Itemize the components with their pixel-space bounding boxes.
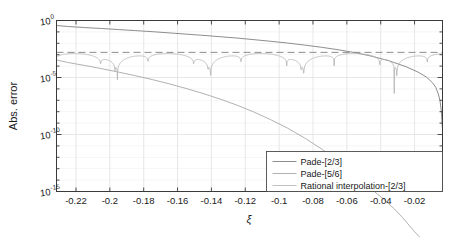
svg-text:10: 10 <box>39 186 51 198</box>
y-axis-label: Abs. error <box>7 82 19 131</box>
figure-background <box>0 0 458 244</box>
x-tick-label: -0.02 <box>404 195 426 206</box>
x-tick-label: -0.08 <box>302 195 324 206</box>
x-tick-label: -0.06 <box>336 195 358 206</box>
svg-text:-10: -10 <box>50 126 61 134</box>
chart-svg: -0.22-0.2-0.18-0.16-0.14-0.12-0.1-0.08-0… <box>0 0 458 244</box>
x-tick-label: -0.2 <box>102 195 118 206</box>
x-tick-label: -0.14 <box>201 195 223 206</box>
x-tick-label: -0.04 <box>370 195 392 206</box>
x-tick-label: -0.1 <box>271 195 287 206</box>
x-tick-label: -0.18 <box>133 195 155 206</box>
legend-label-2[interactable]: Pade-[5/6] <box>301 169 343 179</box>
x-tick-label: -0.12 <box>234 195 256 206</box>
x-tick-label: -0.16 <box>167 195 189 206</box>
legend-label-1[interactable]: Pade-[2/3] <box>301 157 343 167</box>
legend-label-3[interactable]: Rational interpolation-[2/3] <box>301 181 406 191</box>
svg-text:10: 10 <box>39 129 51 141</box>
svg-text:10: 10 <box>39 72 51 84</box>
svg-text:-15: -15 <box>50 183 61 191</box>
svg-text:10: 10 <box>39 15 51 27</box>
x-tick-label: -0.22 <box>65 195 87 206</box>
legend[interactable]: Pade-[2/3]Pade-[5/6]Rational interpolati… <box>267 152 443 192</box>
figure-container: -0.22-0.2-0.18-0.16-0.14-0.12-0.1-0.08-0… <box>0 0 458 244</box>
